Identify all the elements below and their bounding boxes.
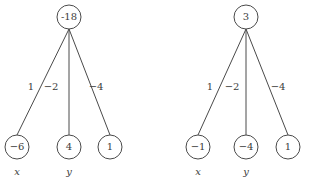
figure-canvas: 1−2−4-18−6x4y11−2−43−1x−4y1 xyxy=(0,0,312,182)
leaf-node-value: 1 xyxy=(285,142,291,152)
edge-weight-label: 1 xyxy=(207,82,213,92)
root-node-value: 3 xyxy=(243,12,249,22)
variable-name-label: x xyxy=(14,167,20,177)
edge-weight-label: 1 xyxy=(28,82,34,92)
edge-weight-label: −2 xyxy=(44,82,59,92)
leaf-node-value: −4 xyxy=(239,142,254,152)
leaf-node-value: 1 xyxy=(107,142,113,152)
leaf-node-value: −1 xyxy=(191,142,206,152)
edge-weight-label: −2 xyxy=(225,82,240,92)
variable-name-label: x xyxy=(195,167,201,177)
variable-name-label: y xyxy=(66,167,72,177)
variable-name-label: y xyxy=(243,167,249,177)
leaf-node-value: −6 xyxy=(10,142,25,152)
leaf-node-value: 4 xyxy=(66,142,72,152)
edge-weight-label: −4 xyxy=(89,82,104,92)
root-node-value: -18 xyxy=(61,12,77,22)
edge-weight-label: −4 xyxy=(271,82,286,92)
